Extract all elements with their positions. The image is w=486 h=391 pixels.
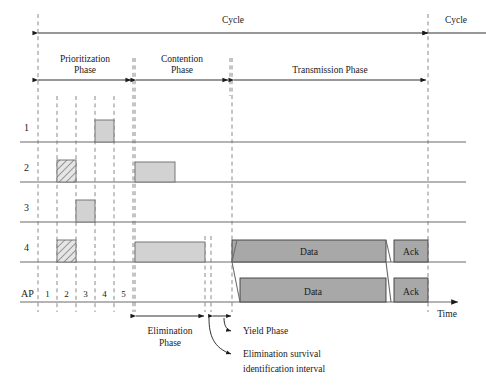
elimination-label-1: Elimination [148,326,193,336]
phase-contention: Contention Phase [136,54,228,80]
slot-label-3: 3 [83,289,88,299]
phase-transmission: Transmission Phase [234,65,426,80]
row-label-ap: AP [21,288,34,299]
skew-tick-4 [386,262,391,302]
row-label-node-3: 3 [24,202,29,213]
row-label-node-1: 1 [24,122,29,133]
slot-label-1: 1 [45,289,50,299]
bar-node4-data-label: Data [300,247,319,257]
cycle-next-label: Cycle [445,15,467,25]
prioritization-label-2: Phase [74,65,96,75]
bars: Data Ack Data Ack [57,120,428,302]
timing-diagram-svg: Cycle Cycle Prioritization Phase Content… [0,0,486,391]
bar-node4-ack-label: Ack [403,247,419,257]
esi-annotation-line1: Elimination survival [243,349,321,359]
bar-node2-priority-hatched [57,160,76,182]
bar-node4-contention [135,242,205,262]
row-labels: 1 2 3 4 AP [21,122,34,299]
sub-phase-elimination: Elimination Phase [136,316,204,348]
bar-ap-ack-label: Ack [403,287,419,297]
slot-label-4: 4 [102,289,107,299]
row-label-node-4: 4 [24,242,29,253]
skew-tick-3 [232,262,240,302]
bar-ap-data-label: Data [304,287,323,297]
contention-label-2: Phase [171,65,193,75]
phase-prioritization: Prioritization Phase [38,54,131,80]
callouts: Yield Phase Elimination survival identif… [209,318,325,374]
bar-node4-priority-hatched [57,240,76,262]
slot-label-5: 5 [121,289,126,299]
skew-tick-2 [386,240,391,262]
cycle-span-main: Cycle [38,15,428,33]
diagram-canvas: Cycle Cycle Prioritization Phase Content… [0,0,486,391]
cycle-label: Cycle [222,15,244,25]
bar-node1-priority [95,120,114,142]
prioritization-label-1: Prioritization [60,54,110,64]
esi-leader [209,318,231,354]
bar-node3-priority [76,200,95,222]
yield-phase-annotation: Yield Phase [243,326,288,336]
contention-label-1: Contention [161,54,203,64]
bar-node2-contention [135,162,175,182]
yield-leader [224,318,231,331]
time-axis-label: Time [437,309,457,319]
cycle-span-next: Cycle [428,15,486,33]
slot-label-2: 2 [64,289,69,299]
elimination-label-2: Phase [159,338,181,348]
row-label-node-2: 2 [24,162,29,173]
transmission-label: Transmission Phase [292,65,367,75]
esi-annotation-line2: identification interval [243,364,325,374]
